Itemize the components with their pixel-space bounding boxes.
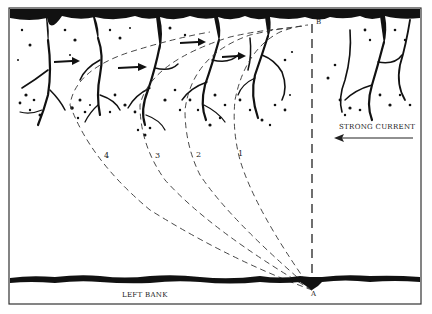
path-1-label: 1 [238,150,243,158]
path-3-label: 3 [155,152,160,160]
point-a-label: A [311,291,316,298]
point-b-label: B [316,19,321,26]
strong-current-label: STRONG CURRENT [339,124,415,131]
left-bank-label: LEFT BANK [122,292,168,299]
river-crossing-diagram [0,0,432,314]
path-2-label: 2 [196,151,201,159]
path-4-label: 4 [104,152,109,160]
